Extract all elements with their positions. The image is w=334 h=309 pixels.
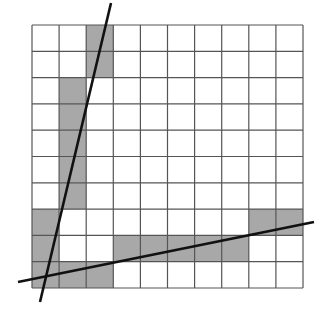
- shaded-cell: [140, 235, 167, 261]
- shaded-cell: [195, 235, 222, 261]
- shaded-cell: [59, 130, 86, 156]
- shaded-cell: [276, 209, 303, 235]
- shaded-cell: [59, 262, 86, 288]
- grid-lines: [32, 25, 303, 288]
- shaded-cell: [32, 209, 59, 235]
- rasterization-diagram: [0, 0, 334, 309]
- steep-line: [40, 3, 111, 302]
- shaded-cell: [59, 78, 86, 104]
- shallow-line: [18, 222, 314, 282]
